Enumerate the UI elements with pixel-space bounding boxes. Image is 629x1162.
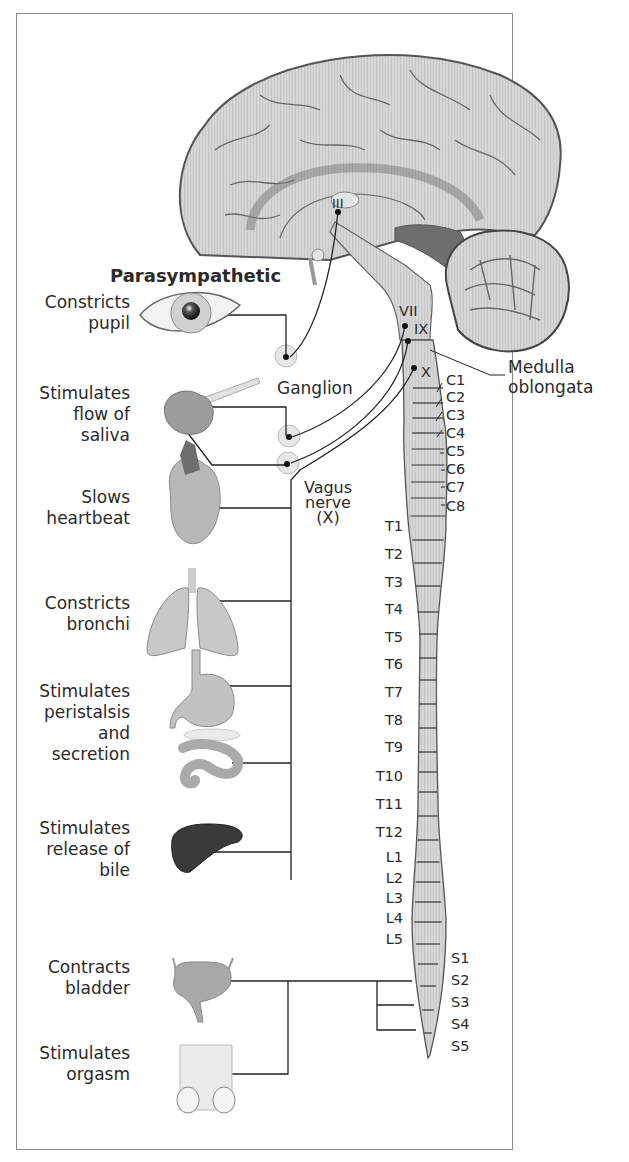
- medulla-label-line: oblongata: [508, 377, 593, 397]
- intestine-icon: [183, 744, 238, 783]
- segment-C4: C4: [446, 425, 465, 441]
- effect-salivary: Stimulates flow of saliva: [10, 383, 130, 446]
- segment-L2: L2: [363, 870, 403, 886]
- eye-icon: [140, 293, 240, 333]
- effect-gut-line: Stimulates: [10, 681, 130, 702]
- heart-icon: [169, 440, 220, 544]
- segment-C6: C6: [446, 461, 465, 477]
- effect-salivary-line: saliva: [10, 425, 130, 446]
- segment-T9: T9: [363, 739, 403, 755]
- segment-C7: C7: [446, 479, 465, 495]
- segment-T12: T12: [363, 824, 403, 840]
- segment-T2: T2: [363, 546, 403, 562]
- lungs-icon: [147, 568, 238, 656]
- segment-T11: T11: [363, 796, 403, 812]
- vagus-nerve-label: Vagus nerve (X): [298, 480, 358, 525]
- segment-T8: T8: [363, 712, 403, 728]
- diagram-title: Parasympathetic: [110, 265, 281, 286]
- effect-lungs-line: Constricts: [10, 593, 130, 614]
- effect-bladder-line: Contracts: [10, 957, 130, 978]
- effect-heart-line: Slows: [10, 487, 130, 508]
- effect-eye-line: Constricts: [10, 292, 130, 313]
- vagus-label-line: (X): [298, 510, 358, 525]
- spinal-cord: [402, 340, 447, 1058]
- liver-icon: [172, 824, 243, 872]
- bladder-icon: [173, 958, 233, 1022]
- effect-genitals: Stimulates orgasm: [10, 1043, 130, 1085]
- ganglion-label: Ganglion: [277, 378, 353, 399]
- segment-L5: L5: [363, 931, 403, 947]
- effect-liver-line: Stimulates: [10, 818, 130, 839]
- effect-gut-line: and: [10, 723, 130, 744]
- effect-lungs: Constricts bronchi: [10, 593, 130, 635]
- effect-gut-line: secretion: [10, 744, 130, 765]
- segment-T3: T3: [363, 574, 403, 590]
- effect-bladder-line: bladder: [10, 978, 130, 999]
- segment-S5: S5: [451, 1038, 469, 1054]
- segment-C1: C1: [446, 372, 465, 388]
- segment-T10: T10: [363, 768, 403, 784]
- segment-L1: L1: [363, 849, 403, 865]
- ganglia: [275, 345, 300, 474]
- effect-eye: Constricts pupil: [10, 292, 130, 334]
- segment-S4: S4: [451, 1016, 469, 1032]
- effect-liver: Stimulates release of bile: [10, 818, 130, 881]
- effect-liver-line: bile: [10, 860, 130, 881]
- effect-gut-line: peristalsis: [10, 702, 130, 723]
- segment-S2: S2: [451, 972, 469, 988]
- salivary-gland-icon: [164, 378, 260, 434]
- medulla-label-line: Medulla: [508, 357, 593, 377]
- cranial-nerve-III: III: [332, 196, 344, 212]
- effect-bladder: Contracts bladder: [10, 957, 130, 999]
- effect-eye-line: pupil: [10, 313, 130, 334]
- cerebellum: [446, 230, 569, 351]
- segment-C5: C5: [446, 443, 465, 459]
- genitals-icon: [177, 1045, 235, 1113]
- segment-T1: T1: [363, 518, 403, 534]
- effect-gut: Stimulates peristalsis and secretion: [10, 681, 130, 765]
- segment-L4: L4: [363, 910, 403, 926]
- medulla-oblongata-label: Medulla oblongata: [508, 357, 593, 397]
- cranial-nerve-IX: IX: [414, 321, 428, 337]
- segment-C8: C8: [446, 498, 465, 514]
- effect-salivary-line: flow of: [10, 404, 130, 425]
- segment-T7: T7: [363, 684, 403, 700]
- stomach-icon: [170, 650, 240, 741]
- segment-S3: S3: [451, 994, 469, 1010]
- segment-C2: C2: [446, 389, 465, 405]
- effect-lungs-line: bronchi: [10, 614, 130, 635]
- effect-heart: Slows heartbeat: [10, 487, 130, 529]
- effect-liver-line: release of: [10, 839, 130, 860]
- segment-C3: C3: [446, 407, 465, 423]
- effect-heart-line: heartbeat: [10, 508, 130, 529]
- segment-T5: T5: [363, 629, 403, 645]
- cranial-nerve-VII: VII: [399, 303, 417, 319]
- effect-salivary-line: Stimulates: [10, 383, 130, 404]
- segment-S1: S1: [451, 950, 469, 966]
- effect-genitals-line: orgasm: [10, 1064, 130, 1085]
- segment-T6: T6: [363, 656, 403, 672]
- segment-L3: L3: [363, 890, 403, 906]
- segment-T4: T4: [363, 601, 403, 617]
- effect-genitals-line: Stimulates: [10, 1043, 130, 1064]
- cranial-nerve-X: X: [421, 364, 431, 380]
